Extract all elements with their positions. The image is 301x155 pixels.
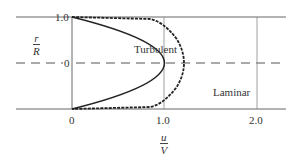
x-axis-label: u V [160, 131, 168, 155]
x-axis-numerator: u [160, 131, 168, 144]
turbulent-label: Turbulent [134, 44, 177, 55]
y-tick-1: 1.0 [55, 12, 69, 23]
y-axis-denominator: R [33, 45, 40, 57]
x-tick-0: 0 [69, 115, 75, 126]
laminar-label: Laminar [213, 87, 250, 98]
y-axis-label: r R [33, 32, 40, 57]
laminar-profile-curve [72, 17, 165, 109]
y-axis-numerator: r [33, 32, 40, 45]
y-tick-0: 0 [63, 58, 71, 69]
x-tick-2: 2.0 [249, 115, 263, 126]
x-axis-denominator: V [160, 144, 168, 155]
x-tick-1: 1.0 [156, 115, 170, 126]
velocity-profile-plot [0, 0, 301, 155]
